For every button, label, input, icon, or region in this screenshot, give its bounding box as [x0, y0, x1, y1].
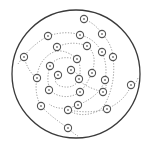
node-n26	[64, 124, 71, 131]
node-center-dot-icon	[49, 65, 51, 67]
node-center-dot-icon	[101, 33, 103, 35]
node-n16	[33, 74, 40, 81]
node-n25	[103, 105, 110, 112]
node-n6	[53, 43, 60, 50]
node-center-dot-icon	[106, 108, 108, 110]
node-center-dot-icon	[36, 77, 38, 79]
node-n2	[98, 30, 105, 37]
node-center-dot-icon	[57, 74, 59, 76]
node-n22	[37, 102, 44, 109]
node-n24	[64, 106, 71, 113]
node-center-dot-icon	[83, 18, 85, 20]
node-n4	[44, 32, 51, 39]
node-n10	[73, 55, 80, 62]
node-center-dot-icon	[76, 58, 78, 60]
node-center-dot-icon	[104, 79, 106, 81]
node-n19	[45, 86, 52, 93]
node-n11	[46, 62, 53, 69]
dotted-path-arm-top-right	[68, 19, 114, 115]
node-center-dot-icon	[130, 84, 132, 86]
node-n5	[83, 42, 90, 49]
node-center-dot-icon	[48, 89, 50, 91]
node-n18	[127, 81, 134, 88]
node-center-dot-icon	[91, 72, 93, 74]
node-center-dot-icon	[101, 51, 103, 53]
spiral-diagram	[0, 0, 148, 149]
node-n12	[67, 66, 74, 73]
node-n13	[88, 69, 95, 76]
node-n17	[101, 76, 108, 83]
node-center-dot-icon	[67, 127, 69, 129]
node-n3	[76, 31, 83, 38]
node-center-dot-icon	[47, 35, 49, 37]
node-n21	[99, 88, 106, 95]
node-center-dot-icon	[112, 56, 114, 58]
node-center-dot-icon	[77, 104, 79, 106]
node-center-dot-icon	[56, 46, 58, 48]
node-n20	[76, 88, 83, 95]
node-n14	[54, 71, 61, 78]
node-center-dot-icon	[79, 34, 81, 36]
node-center-dot-icon	[79, 91, 81, 93]
boundary-circle	[12, 10, 140, 138]
node-n23	[74, 101, 81, 108]
node-center-dot-icon	[102, 91, 104, 93]
node-n7	[98, 48, 105, 55]
node-n9	[20, 53, 27, 60]
node-center-dot-icon	[67, 109, 69, 111]
node-n1	[80, 15, 87, 22]
node-n8	[109, 53, 116, 60]
node-center-dot-icon	[70, 69, 72, 71]
node-n15	[75, 75, 82, 82]
node-center-dot-icon	[78, 78, 80, 80]
node-center-dot-icon	[40, 105, 42, 107]
node-center-dot-icon	[86, 45, 88, 47]
node-center-dot-icon	[23, 56, 25, 58]
